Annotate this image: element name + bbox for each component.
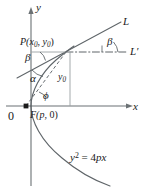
parabola-equation-label: y2 = 4px: [70, 152, 106, 163]
phi-angle-label: ϕ: [43, 90, 49, 101]
y0-segment-label: y0: [58, 72, 66, 84]
point-p-close: ): [51, 36, 54, 47]
equation-eq: = 4: [79, 151, 96, 163]
focus-rest: , 0): [44, 109, 57, 120]
tangent-line-L: [17, 22, 121, 78]
focus-label: F(p, 0): [30, 110, 58, 120]
beta-angle-label-right: β: [107, 36, 112, 47]
origin-label: 0: [8, 110, 14, 122]
horizontal-line-label: L′: [130, 46, 139, 57]
alpha-angle-label: α: [30, 73, 36, 84]
parabola-figure: y x 0 P(x0, y0) F(p, 0) L L′ β β α ϕ y0 …: [0, 0, 145, 189]
equation-x: x: [102, 151, 107, 163]
point-p-label: P(x0, y0): [20, 37, 54, 49]
y0-sub: 0: [62, 76, 66, 84]
beta-angle-label-left: β: [25, 52, 30, 63]
focus-point-marker: [24, 104, 29, 109]
y-axis-label: y: [36, 2, 41, 13]
tangent-line-label: L: [123, 16, 129, 27]
x-axis-label: x: [133, 101, 138, 112]
beta-angle-arc-left: [40, 52, 46, 61]
